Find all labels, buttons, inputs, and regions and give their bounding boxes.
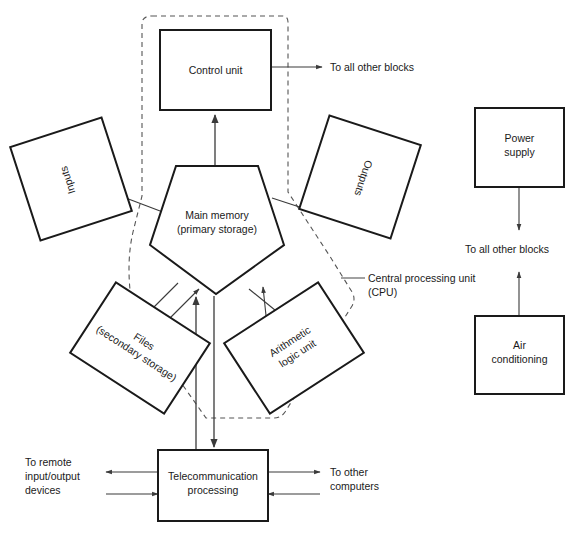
annotation-remote-io-line1: To remote xyxy=(25,456,72,468)
block-power-supply-label-line2: supply xyxy=(504,146,535,158)
diagram-canvas: Control unit Main memory (primary storag… xyxy=(0,0,584,543)
annotation-cpu-line1: Central processing unit xyxy=(368,272,475,284)
block-inputs[interactable]: Inputs xyxy=(10,118,132,241)
annotation-control-unit-output: To all other blocks xyxy=(330,61,414,73)
annotation-remote-io-devices: To remote input/output devices xyxy=(25,456,80,496)
block-telecom-label-line1: Telecommunication xyxy=(168,470,258,482)
block-outputs[interactable]: Outputs xyxy=(299,116,421,239)
annotation-cpu-boundary-label: Central processing unit (CPU) xyxy=(368,272,475,298)
annotation-other-computers-line2: computers xyxy=(330,480,379,492)
annotation-remote-io-line3: devices xyxy=(25,484,61,496)
block-air-conditioning-label-line1: Air xyxy=(513,339,526,351)
block-control-unit[interactable]: Control unit xyxy=(160,30,271,110)
block-telecom-label-line2: processing xyxy=(188,484,239,496)
block-power-supply-label-line1: Power xyxy=(505,132,535,144)
annotation-cpu-line2: (CPU) xyxy=(368,286,397,298)
annotation-to-all-other-blocks-power: To all other blocks xyxy=(465,243,549,255)
connector-telecom-remote-io xyxy=(106,472,158,494)
block-air-conditioning-label-line2: conditioning xyxy=(491,353,547,365)
annotation-power-output: To all other blocks xyxy=(465,243,549,255)
block-main-memory-label-line2: (primary storage) xyxy=(177,223,257,235)
block-main-memory-label-line1: Main memory xyxy=(185,209,249,221)
block-control-unit-label: Control unit xyxy=(189,64,243,76)
connector-telecom-memory-pair xyxy=(196,296,214,450)
annotation-to-all-other-blocks-cpu: To all other blocks xyxy=(330,61,414,73)
block-power-supply[interactable]: Power supply xyxy=(475,108,564,187)
annotation-remote-io-line2: input/output xyxy=(25,470,80,482)
computer-system-block-diagram: Control unit Main memory (primary storag… xyxy=(0,0,584,543)
connector-telecom-other-computers xyxy=(268,472,320,494)
block-main-memory[interactable]: Main memory (primary storage) xyxy=(150,166,284,294)
annotation-other-computers: To other computers xyxy=(330,466,379,492)
block-telecommunication-processing[interactable]: Telecommunication processing xyxy=(158,450,268,521)
block-air-conditioning[interactable]: Air conditioning xyxy=(475,316,564,394)
annotation-other-computers-line1: To other xyxy=(330,466,368,478)
block-arithmetic-logic-unit[interactable]: Arithmetic logic unit xyxy=(224,282,364,413)
